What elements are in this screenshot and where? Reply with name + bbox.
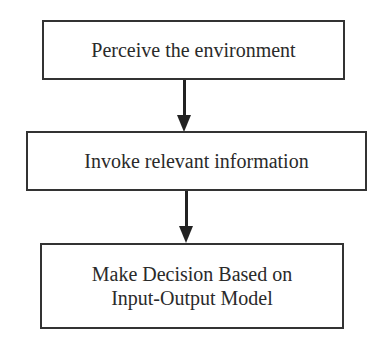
flow-step-invoke: Invoke relevant information: [26, 131, 367, 191]
arrow-head: [177, 115, 191, 132]
flow-step-decision: Make Decision Based on Input-Output Mode…: [40, 243, 344, 329]
down-arrow-icon: [174, 80, 194, 132]
flow-step-label: Perceive the environment: [91, 38, 295, 62]
arrow-shaft: [183, 80, 186, 118]
flow-step-perceive: Perceive the environment: [42, 20, 345, 80]
arrow-shaft: [185, 191, 188, 229]
arrow-head: [179, 226, 193, 243]
flow-step-label: Invoke relevant information: [84, 149, 308, 173]
flow-step-label: Make Decision Based on Input-Output Mode…: [92, 262, 293, 310]
down-arrow-icon: [176, 191, 196, 243]
